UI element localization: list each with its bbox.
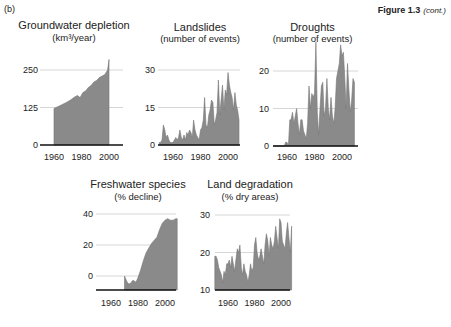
x-tick-label: 1960 [44,152,64,162]
y-tick-label: 10 [259,104,269,114]
y-tick-label: 20 [200,248,210,258]
chart-landslides: 01530196019802000 [145,65,240,162]
x-tick-label: 1960 [101,298,121,308]
y-tick-label: 20 [83,240,93,250]
y-tick-label: 40 [83,209,93,219]
chart-freshwater: 02040196019802000 [83,209,177,308]
y-tick-label: 250 [23,65,38,75]
y-tick-label: 15 [145,103,155,113]
charts-canvas: 0125250196019802000015301960198020000102… [0,0,451,327]
area-series [54,60,109,146]
x-tick-label: 1980 [128,298,148,308]
x-tick-label: 2000 [271,298,291,308]
y-tick-label: 0 [264,141,269,151]
y-tick-label: 30 [200,210,210,220]
y-tick-label: 0 [33,140,38,150]
x-tick-label: 1960 [218,298,238,308]
y-tick-label: 10 [200,285,210,295]
x-tick-label: 2000 [155,298,175,308]
y-tick-label: 0 [88,271,93,281]
x-tick-label: 2000 [99,152,119,162]
x-tick-label: 1980 [304,152,324,162]
chart-groundwater: 0125250196019802000 [23,60,123,163]
area-series [125,219,178,290]
x-tick-label: 1980 [190,152,210,162]
chart-droughts: 01020196019802000 [259,42,358,162]
x-tick-label: 2000 [332,152,352,162]
y-tick-label: 30 [145,65,155,75]
y-tick-label: 20 [259,66,269,76]
x-tick-label: 1980 [244,298,264,308]
chart-land-degradation: 102030196019802000 [200,210,292,308]
x-tick-label: 2000 [218,152,238,162]
area-series [273,42,354,146]
x-tick-label: 1980 [71,152,91,162]
y-tick-label: 0 [150,140,155,150]
area-series [159,73,239,146]
y-tick-label: 125 [23,103,38,113]
x-tick-label: 1960 [277,152,297,162]
x-tick-label: 1960 [163,152,183,162]
area-series [215,219,292,290]
